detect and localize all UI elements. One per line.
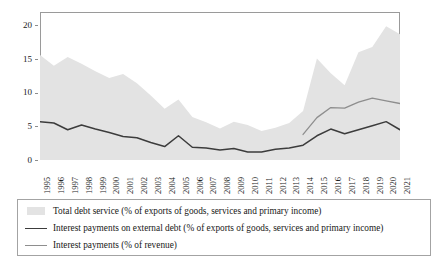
- legend-item-total-debt-service: Total debt service (% of exports of good…: [18, 203, 321, 219]
- y-tick-label: 10: [23, 88, 32, 97]
- chart-figure: 05101520 1995199619971998199920002001200…: [0, 0, 441, 273]
- chart-legend: Total debt service (% of exports of good…: [17, 199, 431, 256]
- x-tick-label: 2011: [265, 177, 274, 194]
- plot-area: [40, 12, 400, 160]
- x-tick-label: 1995: [43, 177, 52, 194]
- x-tick-label: 2014: [306, 177, 315, 194]
- y-tick-label: 20: [23, 21, 32, 30]
- x-tick-label: 1998: [85, 177, 94, 194]
- legend-item-interest-revenue: Interest payments (% of revenue): [18, 237, 177, 253]
- x-tick-label: 2017: [348, 177, 357, 194]
- x-tick-label: 2003: [154, 177, 163, 194]
- x-tick-label: 1999: [99, 177, 108, 194]
- line-swatch-icon: [25, 245, 47, 246]
- area-swatch-icon: [27, 207, 45, 215]
- x-tick-label: 2006: [196, 177, 205, 194]
- x-tick-label: 2015: [320, 177, 329, 194]
- x-tick-label: 2019: [376, 177, 385, 194]
- y-tick-label: 5: [28, 122, 33, 131]
- x-tick-label: 2013: [292, 177, 301, 194]
- x-tick-label: 2010: [251, 177, 260, 194]
- legend-item-label: Interest payments on external debt (% of…: [53, 223, 383, 234]
- y-tick-mark: [35, 93, 38, 94]
- x-tick-label: 2000: [112, 177, 121, 194]
- y-tick-mark: [35, 160, 38, 161]
- line-swatch-icon: [25, 228, 47, 229]
- x-axis: 1995199619971998199920002001200220032004…: [40, 161, 400, 197]
- x-tick-label: 2009: [237, 177, 246, 194]
- legend-item-label: Interest payments (% of revenue): [53, 240, 177, 251]
- x-tick-label: 2005: [182, 177, 191, 194]
- x-tick-label: 2004: [168, 177, 177, 194]
- x-tick-label: 2001: [126, 177, 135, 194]
- x-tick-label: 2020: [389, 177, 398, 194]
- y-tick-mark: [35, 25, 38, 26]
- y-axis: 05101520: [0, 12, 38, 160]
- x-tick-label: 2012: [279, 177, 288, 194]
- x-tick-label: 2018: [362, 177, 371, 194]
- x-tick-label: 2021: [403, 177, 412, 194]
- legend-item-label: Total debt service (% of exports of good…: [53, 206, 321, 217]
- x-tick-label: 2007: [209, 177, 218, 194]
- x-tick-label: 2016: [334, 177, 343, 194]
- y-tick-label: 15: [23, 55, 32, 64]
- y-tick-mark: [35, 59, 38, 60]
- area-series-total-debt-service: [40, 26, 400, 160]
- chart-canvas: [40, 12, 400, 160]
- x-tick-label: 2008: [223, 177, 232, 194]
- y-tick-label: 0: [28, 156, 33, 165]
- legend-item-interest-external-debt: Interest payments on external debt (% of…: [18, 220, 383, 236]
- x-tick-label: 1997: [71, 177, 80, 194]
- x-tick-label: 1996: [57, 177, 66, 194]
- y-tick-mark: [35, 126, 38, 127]
- x-tick-label: 2002: [140, 177, 149, 194]
